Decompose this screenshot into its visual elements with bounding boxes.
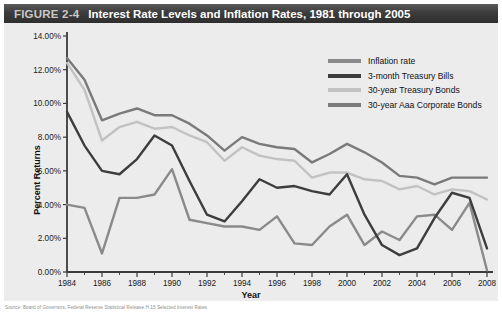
y-axis-tick-label: 0.00% [15,268,61,277]
legend-label: 3-month Treasury Bills [368,71,454,81]
legend-swatch [328,59,361,63]
y-axis-title: Percent Returns [32,130,42,230]
x-axis-tick-label: 1986 [82,279,122,288]
legend-item: 3-month Treasury Bills [328,69,482,84]
figure-header: FIGURE 2-4 Interest Rate Levels and Infl… [4,4,498,23]
x-axis-tick-label: 1984 [47,279,87,288]
series-line [67,112,487,255]
y-axis-tick-label: 10.00% [15,99,61,108]
x-axis-tick-label: 2000 [327,279,367,288]
x-axis-tick-label: 1990 [152,279,192,288]
legend-swatch [328,103,361,107]
legend-label: 30-year Treasury Bonds [368,85,460,95]
x-axis-tick-label: 1998 [292,279,332,288]
x-axis-tick-label: 2002 [362,279,402,288]
x-axis-tick-label: 2004 [397,279,437,288]
x-axis-tick-label: 2008 [467,279,498,288]
x-axis-tick-label: 1988 [117,279,157,288]
x-axis-tick-label: 1992 [187,279,227,288]
x-axis-tick-label: 1996 [257,279,297,288]
legend-label: Inflation rate [368,56,415,66]
y-axis-tick-label: 2.00% [15,234,61,243]
legend-item: 30-year Aaa Corporate Bonds [328,98,482,113]
figure-number: FIGURE 2-4 [14,8,79,20]
x-axis-title: Year [0,290,502,300]
figure-container: FIGURE 2-4 Interest Rate Levels and Infl… [0,0,502,323]
series-line [67,169,487,270]
legend-swatch [328,88,361,92]
figure-title: Interest Rate Levels and Inflation Rates… [88,8,410,20]
legend-swatch [328,74,361,78]
chart-panel: 0.00%2.00%4.00%6.00%8.00%10.00%12.00%14.… [4,23,498,301]
legend-item: 30-year Treasury Bonds [328,83,482,98]
legend-label: 30-year Aaa Corporate Bonds [368,100,482,110]
x-axis-tick-label: 1994 [222,279,262,288]
y-axis-tick-label: 12.00% [15,65,61,74]
source-caption: Source: Board of Governors, Federal Rese… [5,305,485,310]
y-axis-tick-label: 14.00% [15,32,61,41]
x-axis-tick-label: 2006 [432,279,472,288]
chart-legend: Inflation rate3-month Treasury Bills30-y… [328,54,482,112]
legend-item: Inflation rate [328,54,482,69]
